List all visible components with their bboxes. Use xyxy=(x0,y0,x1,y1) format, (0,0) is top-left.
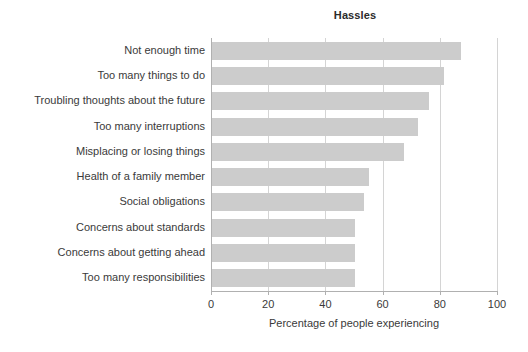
category-label: Too many interruptions xyxy=(6,120,211,132)
x-axis-title: Percentage of people experiencing xyxy=(211,317,497,329)
bar xyxy=(212,219,355,237)
bar xyxy=(212,244,355,262)
category-label: Troubling thoughts about the future xyxy=(6,94,211,106)
x-tick-label-40: 40 xyxy=(319,298,331,310)
gridline-100 xyxy=(497,38,498,291)
x-tick-label-80: 80 xyxy=(434,298,446,310)
x-tick-label-60: 60 xyxy=(376,298,388,310)
x-tick-mark-80 xyxy=(440,291,441,295)
x-tick-mark-100 xyxy=(497,291,498,295)
x-tick-label-0: 0 xyxy=(208,298,214,310)
x-tick-mark-20 xyxy=(268,291,269,295)
x-tick-label-100: 100 xyxy=(488,298,506,310)
category-label: Misplacing or losing things xyxy=(6,145,211,157)
bar xyxy=(212,269,355,287)
plot-area: 020406080100 xyxy=(211,38,497,291)
x-tick-mark-60 xyxy=(383,291,384,295)
chart-screenshot: Hassles Not enough timeToo many things t… xyxy=(0,0,528,352)
bar xyxy=(212,193,364,211)
bar xyxy=(212,67,444,85)
category-label: Not enough time xyxy=(6,44,211,56)
x-tick-label-20: 20 xyxy=(262,298,274,310)
x-axis-line xyxy=(211,291,498,292)
bar xyxy=(212,92,429,110)
chart-title: Hassles xyxy=(0,9,528,21)
bar xyxy=(212,42,461,60)
bar xyxy=(212,143,404,161)
category-label: Concerns about getting ahead xyxy=(6,246,211,258)
category-label: Health of a family member xyxy=(6,170,211,182)
category-label: Concerns about standards xyxy=(6,221,211,233)
x-tick-mark-40 xyxy=(325,291,326,295)
x-tick-mark-0 xyxy=(211,291,212,295)
category-label: Social obligations xyxy=(6,195,211,207)
category-axis-labels: Not enough timeToo many things to doTrou… xyxy=(0,38,211,291)
bar xyxy=(212,118,418,136)
category-label: Too many responsibilities xyxy=(6,271,211,283)
bar xyxy=(212,168,369,186)
chart-title-text: Hassles xyxy=(334,9,376,21)
category-label: Too many things to do xyxy=(6,69,211,81)
